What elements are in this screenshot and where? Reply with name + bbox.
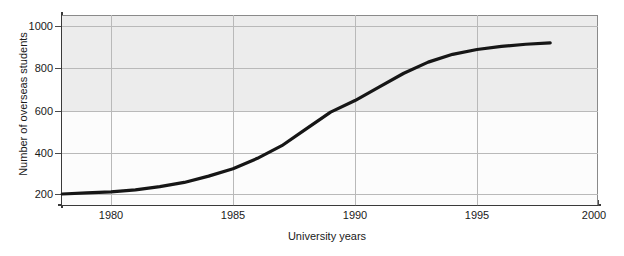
y-axis-title: Number of overseas students [17,24,29,184]
y-tick-600 [55,111,61,112]
x-tick-label-1985: 1985 [221,209,245,221]
data-series-layer [62,15,598,205]
x-axis-title-text: University years [288,230,366,242]
y-tick-label-800: 800 [5,62,53,74]
y-tick-label-200: 200 [5,188,53,200]
x-tick-2000 [598,200,599,206]
x-tick-label-1990: 1990 [343,209,367,221]
x-axis-title: University years [0,230,624,242]
y-tick-label-400: 400 [5,147,53,159]
y-tick-1000 [55,26,61,27]
y-tick-400 [55,153,61,154]
x-tick-label-1995: 1995 [465,209,489,221]
y-tick-label-600: 600 [5,105,53,117]
y-tick-label-1000: 1000 [5,20,53,32]
y-tick-200 [55,194,61,195]
chart-container: Number of overseas students 1000 800 600… [0,0,624,256]
x-tick-label-1980: 1980 [99,209,123,221]
x-tick-label-2000: 2000 [582,209,606,221]
line-series-overseas-students [62,43,550,194]
y-tick-800 [55,68,61,69]
plot-area [62,15,598,205]
